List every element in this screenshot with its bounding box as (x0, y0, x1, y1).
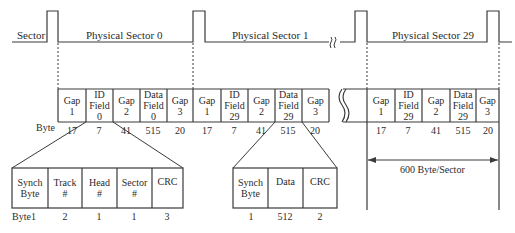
data-field-cell: DataField29 (450, 89, 476, 122)
byte1-label: Byte1 (12, 211, 36, 223)
gap1-cell: Gap1 (193, 89, 221, 122)
id-field-cell: IDField0 (86, 89, 113, 122)
byte-count: 2 (50, 211, 80, 223)
byte-count: 20 (165, 125, 195, 137)
gap3-cell: Gap3 (476, 89, 499, 122)
data-field-cell: DataField29 (275, 89, 302, 122)
byte-count: 512 (270, 211, 300, 223)
byte-count: 1 (236, 211, 266, 223)
gap2-cell: Gap2 (422, 89, 450, 122)
gap2-cell: Gap2 (113, 89, 140, 122)
byte-count: 2 (305, 211, 335, 223)
signal-break-icon (330, 37, 336, 48)
synch-byte-cell: SynchByte (12, 168, 48, 208)
gap1-cell: Gap1 (367, 89, 395, 122)
byte-count: 7 (219, 125, 249, 137)
byte-count: 41 (246, 125, 276, 137)
track-number-cell: Track# (48, 168, 82, 208)
byte-count: 41 (421, 125, 451, 137)
byte-count: 17 (366, 125, 396, 137)
gap3-cell: Gap3 (167, 89, 193, 122)
id-field-cell: IDField29 (395, 89, 422, 122)
sector-number-cell: Sector# (117, 168, 152, 208)
byte-count: 1 (84, 211, 114, 223)
disk-sector-format-diagram: Sector Physical Sector 0 Physical Sector… (0, 0, 515, 233)
crc-cell: CRC (152, 168, 183, 194)
physical-sector-0-label: Physical Sector 0 (86, 29, 162, 41)
id-field-cell: IDField29 (221, 89, 248, 122)
synch-byte-cell: SynchByte (233, 168, 268, 208)
gap2-cell: Gap2 (248, 89, 275, 122)
byte-count: 3 (152, 211, 182, 223)
gap1-cell: Gap1 (58, 89, 86, 122)
byte-count: 17 (57, 125, 87, 137)
byte-count: 1 (119, 211, 149, 223)
data-cell: Data (268, 168, 303, 194)
byte-count: 515 (273, 125, 303, 137)
sector-size-label: 600 Byte/Sector (400, 164, 465, 176)
byte-count: 17 (192, 125, 222, 137)
sector-boundary-markers (58, 43, 499, 89)
byte-count: 41 (111, 125, 141, 137)
head-number-cell: Head# (82, 168, 117, 208)
byte-row-label: Byte (36, 122, 55, 134)
byte-count: 7 (84, 125, 114, 137)
sector-signal-label: Sector (17, 29, 45, 41)
byte-count: 20 (473, 125, 503, 137)
byte-count: 20 (300, 125, 330, 137)
byte-count: 7 (393, 125, 423, 137)
byte-count: 515 (138, 125, 168, 137)
row-break-icon (339, 89, 349, 122)
data-field-cell: DataField0 (140, 89, 167, 122)
gap3-cell: Gap3 (302, 89, 329, 122)
physical-sector-29-label: Physical Sector 29 (392, 29, 474, 41)
physical-sector-1-label: Physical Sector 1 (232, 29, 308, 41)
crc-cell: CRC (303, 168, 337, 194)
